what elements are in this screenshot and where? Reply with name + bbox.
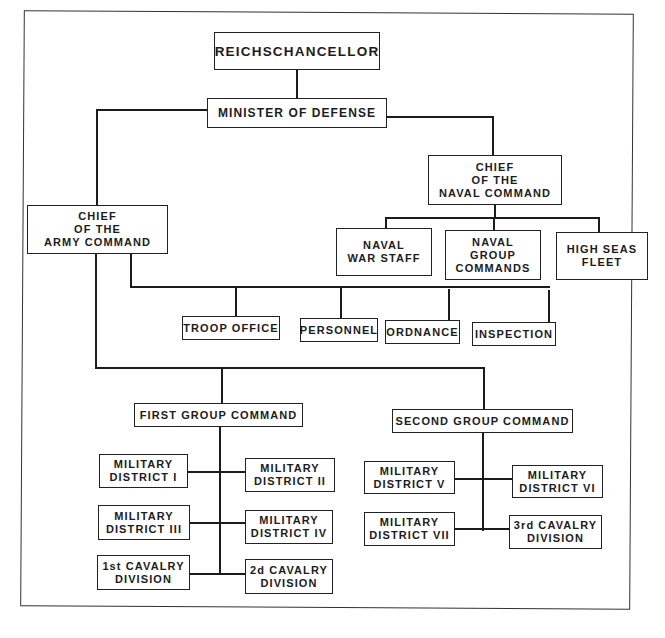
node-1st-cavalry-division: 1st CAVALRY DIVISION bbox=[97, 555, 190, 590]
connector bbox=[96, 109, 98, 206]
connector bbox=[340, 288, 342, 319]
node-3rd-cavalry-division: 3rd CAVALRY DIVISION bbox=[509, 515, 602, 549]
connector bbox=[482, 433, 484, 531]
connector bbox=[448, 289, 450, 321]
connector bbox=[493, 217, 495, 231]
connector bbox=[492, 116, 494, 156]
node-first-group-command: FIRST GROUP COMMAND bbox=[134, 403, 303, 427]
node-military-district-1: MILITARY DISTRICT I bbox=[99, 454, 188, 488]
connector bbox=[95, 367, 485, 369]
connector bbox=[130, 254, 132, 287]
connector bbox=[221, 367, 223, 404]
node-military-district-6: MILITARY DISTRICT VI bbox=[512, 465, 603, 498]
node-2d-cavalry-division: 2d CAVALRY DIVISION bbox=[245, 559, 333, 594]
connector bbox=[190, 522, 248, 524]
connector bbox=[219, 427, 221, 575]
node-minister-of-defense: MINISTER OF DEFENSE bbox=[207, 98, 387, 128]
node-chief-army-command: CHIEF OF THE ARMY COMMAND bbox=[27, 205, 168, 254]
node-ordnance: ORDNANCE bbox=[385, 320, 460, 344]
connector bbox=[96, 109, 208, 111]
node-chief-naval-command: CHIEF OF THE NAVAL COMMAND bbox=[428, 155, 562, 205]
connector bbox=[190, 573, 246, 575]
node-inspection: INSPECTION bbox=[472, 322, 556, 346]
node-military-district-3: MILITARY DISTRICT III bbox=[98, 505, 190, 540]
connector bbox=[598, 217, 600, 233]
node-military-district-4: MILITARY DISTRICT IV bbox=[245, 510, 333, 544]
node-reichschancellor: REICHSCHANCELLOR bbox=[214, 32, 380, 70]
connector bbox=[455, 478, 513, 480]
connector bbox=[188, 471, 248, 473]
node-naval-group-commands: NAVAL GROUP COMMANDS bbox=[445, 230, 541, 280]
connector bbox=[95, 254, 97, 368]
node-naval-war-staff: NAVAL WAR STAFF bbox=[336, 228, 432, 276]
node-second-group-command: SECOND GROUP COMMAND bbox=[392, 409, 573, 433]
node-troop-office: TROOP OFFICE bbox=[182, 316, 280, 340]
connector bbox=[483, 369, 485, 410]
node-military-district-7: MILITARY DISTRICT VII bbox=[364, 512, 455, 546]
node-high-seas-fleet: HIGH SEAS FLEET bbox=[556, 232, 648, 280]
connector bbox=[296, 70, 298, 99]
connector bbox=[235, 287, 237, 317]
node-personnel: PERSONNEL bbox=[300, 318, 378, 342]
connector bbox=[386, 116, 494, 118]
connector bbox=[548, 290, 550, 324]
node-military-district-2: MILITARY DISTRICT II bbox=[245, 458, 335, 492]
node-military-district-5: MILITARY DISTRICT V bbox=[364, 461, 455, 494]
connector bbox=[455, 528, 509, 530]
